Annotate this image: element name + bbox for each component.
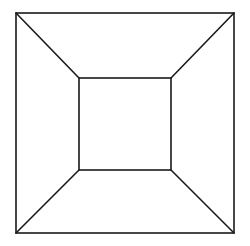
inner-square <box>79 78 171 170</box>
connector-bottom-left <box>16 170 79 233</box>
diagram-canvas <box>0 0 250 246</box>
connector-top-left <box>16 13 79 78</box>
frustum-diagram <box>0 0 250 246</box>
connector-bottom-right <box>171 170 234 233</box>
connector-top-right <box>171 13 234 78</box>
